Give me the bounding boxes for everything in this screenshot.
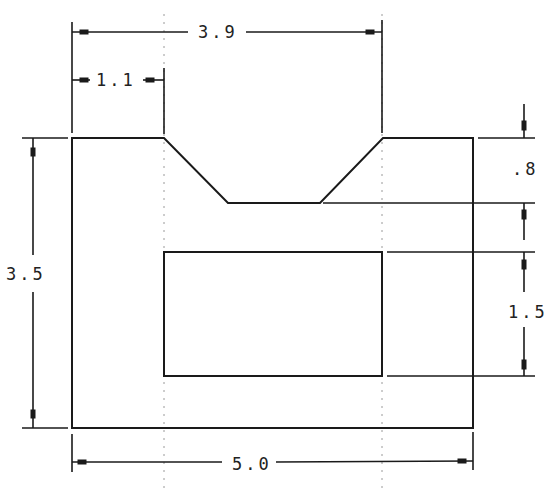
dimension-3-9: 3.9 — [72, 22, 382, 42]
technical-drawing: 3.9 1.1 3.5 5.0 .8 1.5 — [0, 0, 556, 501]
dim-label-0-8: .8 — [512, 159, 538, 179]
dimension-3-5: 3.5 — [6, 138, 46, 428]
dimension-0-8: .8 — [512, 104, 538, 240]
dim-label-1-5: 1.5 — [508, 302, 548, 322]
dim-label-3-9: 3.9 — [198, 22, 238, 42]
inner-cutout — [164, 252, 382, 376]
dim-label-3-5: 3.5 — [6, 264, 46, 284]
part-outline — [72, 138, 473, 428]
dim-label-5-0: 5.0 — [232, 454, 272, 474]
dimension-1-5: 1.5 — [508, 252, 548, 376]
dim-label-1-1: 1.1 — [96, 70, 136, 90]
dimension-1-1: 1.1 — [72, 70, 164, 90]
dimension-5-0: 5.0 — [72, 454, 473, 474]
